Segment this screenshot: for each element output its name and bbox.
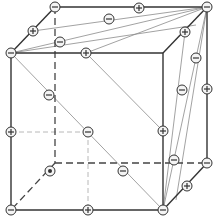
negative-charge-icon [118, 166, 128, 176]
inner-line [86, 53, 163, 131]
negative-charge-icon [202, 158, 212, 168]
cube-diagram-canvas [0, 0, 218, 221]
inner-line [163, 32, 185, 210]
negative-charge-icon [44, 90, 54, 100]
positive-charge-icon [83, 205, 93, 215]
negative-charge-icon [55, 37, 65, 47]
negative-charge-icon [6, 205, 16, 215]
positive-charge-icon [158, 126, 168, 136]
positive-charge-icon [6, 127, 16, 137]
positive-charge-icon [180, 27, 190, 37]
negative-charge-icon [202, 2, 212, 12]
positive-charge-icon [134, 3, 144, 13]
neutral-charge-icon [45, 166, 55, 176]
negative-charge-icon [6, 48, 16, 58]
negative-charge-icon [50, 2, 60, 12]
inner-line [11, 25, 196, 53]
negative-charge-icon [104, 14, 114, 24]
negative-charge-icon [177, 85, 187, 95]
negative-charge-icon [158, 205, 168, 215]
positive-charge-icon [81, 48, 91, 58]
cube-diagram [0, 0, 218, 221]
positive-charge-icon [28, 26, 38, 36]
inner-line [176, 7, 207, 200]
negative-charge-icon [169, 155, 179, 165]
negative-charge-icon [83, 127, 93, 137]
positive-charge-icon [182, 181, 192, 191]
negative-charge-icon [191, 53, 201, 63]
cube-edges [11, 7, 207, 210]
positive-charge-icon [202, 84, 212, 94]
